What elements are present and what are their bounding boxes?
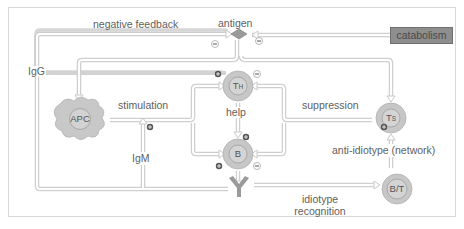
label-bt: B/T — [384, 184, 410, 194]
label-th: TH — [228, 81, 248, 91]
plus-badge-b-top — [243, 134, 249, 140]
arrowhead-help — [234, 132, 242, 138]
label-recognition: recognition — [283, 206, 357, 217]
label-suppression: suppression — [302, 100, 359, 111]
minus-badge-b-right — [254, 163, 261, 170]
minus-badge-th — [254, 71, 261, 78]
label-ts-sub: S — [392, 115, 396, 122]
minus-badge-catabolism — [256, 38, 263, 45]
plus-badge-anti-idiotype — [381, 124, 387, 130]
label-b: B — [228, 149, 248, 159]
label-antigen: antigen — [218, 18, 252, 29]
label-anti-idiotype: anti-idiotype (network) — [330, 144, 437, 157]
arrowhead-anti-idiotype — [387, 134, 395, 140]
catabolism-box: catabolism — [390, 27, 453, 44]
label-ts: TS — [381, 113, 401, 123]
label-negative-feedback: negative feedback — [93, 19, 178, 30]
minus-badge-feedback — [212, 41, 219, 48]
antigen-diamond-icon — [231, 29, 247, 39]
arrowhead-bt — [374, 181, 380, 189]
label-th-sub: H — [239, 83, 244, 90]
label-igm: IgM — [132, 152, 150, 165]
plus-badge-b-left — [216, 163, 222, 169]
label-stimulation: stimulation — [118, 100, 168, 111]
label-help: help — [226, 107, 246, 118]
arrowhead-ts — [387, 96, 395, 102]
label-idiotype: idiotype — [290, 194, 350, 205]
label-igg: IgG — [27, 66, 46, 77]
plus-badge-igm — [147, 124, 153, 130]
plus-badge-th — [215, 71, 221, 77]
label-apc: APC — [68, 114, 92, 124]
